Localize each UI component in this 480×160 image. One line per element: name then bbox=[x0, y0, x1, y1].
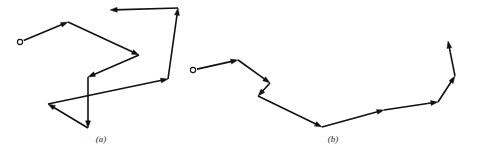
panel-caption-b: (b) bbox=[328, 134, 339, 144]
start-marker bbox=[17, 39, 22, 44]
start-marker bbox=[190, 67, 195, 72]
trajectory-figure bbox=[0, 0, 480, 160]
panel-caption-a: (a) bbox=[96, 134, 107, 144]
